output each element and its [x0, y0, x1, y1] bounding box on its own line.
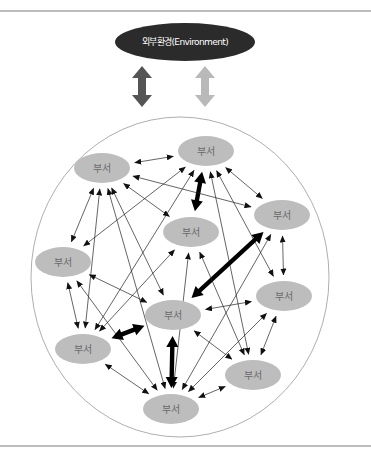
department-node: 부서 — [163, 217, 219, 247]
link-arrow — [199, 386, 226, 397]
department-label: 부서 — [54, 257, 72, 268]
department-label: 부서 — [182, 227, 200, 238]
environment-arrow-dark — [132, 66, 152, 107]
strong-link-arrow — [112, 324, 145, 340]
department-label: 부서 — [244, 370, 262, 381]
department-node: 부서 — [256, 281, 312, 311]
organization-diagram: 외부환경(Environment) 부서부서부서부서부서부서부서부서부서부서 — [0, 0, 371, 457]
environment-arrow-light — [195, 66, 215, 107]
department-label: 부서 — [162, 404, 180, 415]
department-label: 부서 — [197, 146, 215, 157]
department-label: 부서 — [93, 163, 111, 174]
department-label: 부서 — [275, 291, 293, 302]
environment-label: 외부환경(Environment) — [142, 36, 228, 47]
link-arrow — [124, 184, 170, 217]
link-arrow — [71, 188, 93, 242]
link-arrow — [226, 168, 263, 199]
link-arrow — [89, 275, 147, 303]
department-label: 부서 — [74, 344, 92, 355]
department-node: 부서 — [143, 394, 199, 424]
department-node: 부서 — [145, 300, 201, 330]
link-arrow — [135, 156, 174, 162]
department-node: 부서 — [55, 334, 111, 364]
link-arrow — [108, 189, 165, 389]
link-arrow — [261, 316, 276, 354]
department-node: 부서 — [178, 136, 234, 166]
link-arrow — [283, 236, 284, 275]
department-node: 부서 — [35, 247, 91, 277]
department-label: 부서 — [164, 310, 182, 321]
department-node: 부서 — [254, 200, 310, 230]
department-node: 부서 — [74, 153, 130, 183]
department-label: 부서 — [273, 210, 291, 221]
department-node: 부서 — [225, 360, 281, 390]
link-arrow — [68, 283, 78, 329]
environment-group: 외부환경(Environment) — [115, 23, 255, 61]
link-arrow — [105, 364, 148, 394]
